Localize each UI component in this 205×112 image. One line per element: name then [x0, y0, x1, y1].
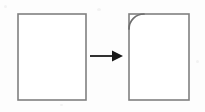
result-rectangle-group [129, 14, 189, 100]
source-rectangle-group [18, 14, 86, 100]
result-rectangle [129, 14, 189, 100]
diagram-canvas [0, 0, 205, 112]
source-rectangle [18, 14, 86, 100]
figure-root [0, 0, 205, 112]
